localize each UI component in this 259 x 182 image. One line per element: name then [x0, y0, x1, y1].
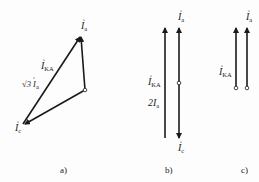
caption-c: c) — [241, 165, 248, 175]
origin-node-b — [177, 81, 181, 85]
label-ika-c: IKA — [218, 66, 232, 78]
panel-a: Ia IKA √3 Ia Ic a) — [14, 20, 87, 175]
phasor-diagram-svg: Ia IKA √3 Ia Ic a) Ia IKA 2Ia Ic b) Ia I… — [0, 0, 259, 182]
caption-b: b) — [165, 165, 173, 175]
phasor-dots — [17, 10, 249, 142]
label-2ia-b: 2Ia — [148, 97, 159, 109]
origin-node-c1 — [234, 86, 238, 90]
phasor-diagram-figure: Ia IKA √3 Ia Ic a) Ia IKA 2Ia Ic b) Ia I… — [0, 0, 259, 182]
label-ia-b: Ia — [177, 11, 184, 23]
label-ika-a: IKA — [40, 60, 54, 72]
origin-node-c2 — [245, 86, 249, 90]
ia-vector-a — [81, 37, 85, 90]
label-ic-b: Ic — [177, 142, 184, 154]
label-sqrt3-ia: √3 Ia — [22, 79, 39, 90]
panel-b: Ia IKA 2Ia Ic b) — [147, 11, 184, 175]
label-ia-c: Ia — [245, 11, 252, 23]
origin-node-a — [83, 88, 87, 92]
label-ia-a: Ia — [80, 20, 87, 32]
label-ic-a: Ic — [14, 122, 21, 134]
panel-c: Ia IKA c) — [218, 11, 252, 175]
label-ika-b: IKA — [147, 76, 161, 88]
caption-a: a) — [60, 165, 67, 175]
